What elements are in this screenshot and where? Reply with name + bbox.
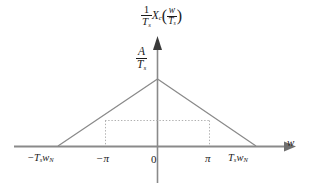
y-axis-label-function: X — [152, 9, 159, 21]
spectrum-plot — [0, 0, 312, 196]
y-axis-arrowhead — [153, 36, 162, 50]
amplitude-label: A Ts — [136, 46, 147, 72]
amplitude-fraction: A Ts — [136, 46, 147, 72]
y-axis-label-prefactor: 1 Ts — [141, 4, 152, 29]
x-tick-label-zero: 0 — [151, 153, 157, 165]
x-tick-label-pi: π — [205, 152, 211, 164]
x-axis-label: w — [287, 136, 294, 148]
figure-canvas: 1 Ts Xc( w Ts ) A Ts −TswN −π 0 π TswN w — [0, 0, 312, 196]
y-axis-label-ts-inner: Ts — [167, 17, 177, 27]
close-paren: ) — [177, 8, 182, 24]
x-tick-label-ts-wn: TswN — [228, 152, 248, 163]
amplitude-denominator: Ts — [136, 59, 147, 72]
y-axis-label-argument: w Ts — [167, 6, 177, 26]
y-axis-label-ts-outer: Ts — [141, 16, 152, 28]
x-tick-label-neg-pi: −π — [96, 152, 109, 164]
x-tick-label-neg-ts-wn: −TswN — [28, 152, 54, 163]
y-axis-label: 1 Ts Xc( w Ts ) — [141, 4, 182, 29]
